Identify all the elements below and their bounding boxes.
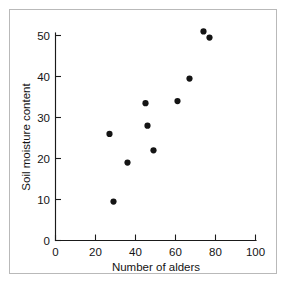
y-tick-label-10: 10 (37, 194, 50, 206)
x-axis-title: Number of alders (112, 261, 200, 273)
data-point (110, 198, 116, 204)
data-point (206, 34, 212, 40)
plot-canvas: 50 40 30 20 10 0 0 20 40 60 80 (0, 0, 289, 285)
data-point (144, 123, 150, 129)
scatter-plot-figure: 50 40 30 20 10 0 0 20 40 60 80 (0, 0, 289, 285)
y-tick-label-0: 0 (44, 235, 50, 247)
y-axis-title: Soil moisture content (20, 83, 32, 191)
data-point (142, 100, 148, 106)
x-tick-label-40: 40 (129, 246, 142, 258)
data-point (106, 131, 112, 137)
y-axis-ticks: 50 40 30 20 10 0 (37, 30, 61, 247)
y-tick-label-30: 30 (37, 112, 50, 124)
y-tick-label-40: 40 (37, 71, 50, 83)
x-tick-label-0: 0 (52, 246, 58, 258)
axes-group (56, 33, 257, 241)
x-tick-label-60: 60 (169, 246, 182, 258)
x-tick-label-80: 80 (209, 246, 222, 258)
x-tick-label-100: 100 (246, 246, 265, 258)
x-tick-label-20: 20 (89, 246, 102, 258)
data-point (186, 75, 192, 81)
data-point (174, 98, 180, 104)
data-point (124, 160, 130, 166)
x-axis-ticks: 0 20 40 60 80 100 (52, 235, 265, 259)
data-points-layer (106, 28, 212, 204)
data-point (200, 28, 206, 34)
y-tick-label-50: 50 (37, 30, 50, 42)
data-point (150, 147, 156, 153)
y-tick-label-20: 20 (37, 153, 50, 165)
